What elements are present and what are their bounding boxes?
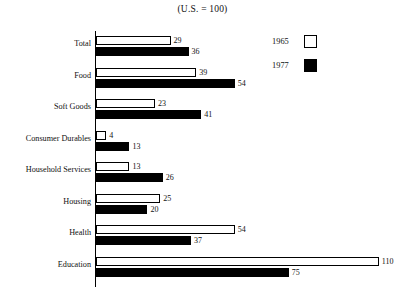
bar-value-label: 75 [292,268,300,277]
category-label: Consumer Durables [0,134,91,144]
legend-item-1977: 1977 [272,57,392,74]
bar-value-label: 41 [204,110,212,119]
legend-swatch-1977 [304,59,317,72]
bar-value-label: 23 [158,99,166,108]
legend-item-1965: 1965 [272,33,392,50]
bar-1965 [96,36,171,45]
bar-value-label: 54 [238,79,246,88]
bar-value-label: 36 [192,47,200,56]
bar-1965 [96,194,160,203]
chart-title: (U.S. = 100) [0,4,405,14]
chart-legend: 1965 1977 [272,33,392,81]
bar-group: Soft Goods2341 [95,94,400,126]
bar-1965 [96,68,196,77]
bar-1977 [96,79,235,88]
category-label: Household Services [0,165,91,175]
bar-1965 [96,99,155,108]
legend-label-1965: 1965 [272,37,289,46]
bar-value-label: 37 [194,236,202,245]
bar-group: Household Services1326 [95,157,400,189]
bar-1965 [96,225,235,234]
bar-1965 [96,162,129,171]
bar-value-label: 4 [109,131,113,140]
bar-1977 [96,47,189,56]
bar-1977 [96,205,147,214]
bar-value-label: 26 [166,173,174,182]
bar-1977 [96,142,129,151]
category-label: Health [0,228,91,238]
bar-1977 [96,236,191,245]
category-label: Total [0,39,91,49]
bar-group: Health5437 [95,220,400,252]
bar-value-label: 13 [132,142,140,151]
bar-1965 [96,131,106,140]
category-label: Soft Goods [0,102,91,112]
bar-value-label: 13 [132,162,140,171]
legend-swatch-1965 [304,35,317,48]
bar-group: Housing2520 [95,189,400,221]
bar-value-label: 20 [150,205,158,214]
bar-group: Education11075 [95,252,400,284]
bar-value-label: 54 [238,225,246,234]
legend-label-1977: 1977 [272,61,289,70]
bar-value-label: 110 [382,257,394,266]
bar-chart: (U.S. = 100) Total2936Food3954Soft Goods… [0,0,405,292]
bar-value-label: 25 [163,194,171,203]
category-label: Education [0,260,91,270]
bar-1965 [96,257,379,266]
bar-value-label: 39 [199,68,207,77]
bar-1977 [96,110,201,119]
bar-1977 [96,268,289,277]
category-label: Housing [0,197,91,207]
bar-group: Consumer Durables413 [95,126,400,158]
bar-value-label: 29 [174,36,182,45]
bar-1977 [96,173,163,182]
category-label: Food [0,71,91,81]
